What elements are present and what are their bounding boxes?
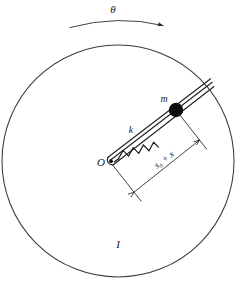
spring-constant-label: k — [129, 124, 134, 135]
diagram-canvas: θ m k O I s₀ + x — [0, 0, 239, 289]
pivot-point — [109, 159, 113, 163]
physics-diagram-figure: θ m k O I s₀ + x — [0, 0, 239, 289]
rotation-arc-arrow — [70, 20, 163, 27]
origin-label: O — [97, 156, 105, 168]
theta-label: θ — [110, 3, 116, 15]
radial-slot-rod — [107, 79, 214, 165]
mass-label: m — [160, 93, 167, 104]
moment-of-inertia-label: I — [115, 238, 121, 250]
point-mass — [169, 103, 183, 117]
displacement-label: s₀ + x — [152, 148, 176, 170]
